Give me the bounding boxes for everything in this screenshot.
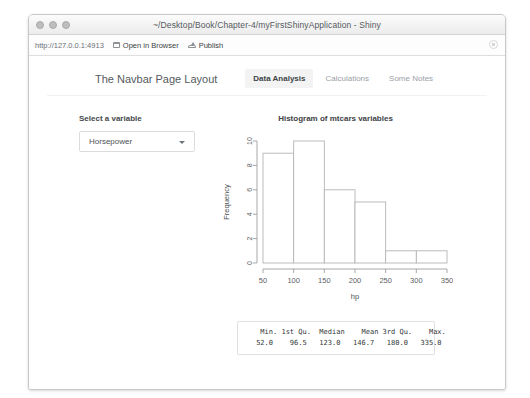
open-in-browser-button[interactable]: Open in Browser — [113, 41, 179, 50]
publish-button[interactable]: Publish — [188, 41, 224, 50]
close-dot-button[interactable] — [36, 21, 44, 29]
svg-text:10: 10 — [245, 137, 252, 145]
tab-some-notes[interactable]: Some Notes — [381, 69, 441, 88]
publish-icon — [188, 42, 196, 48]
svg-text:300: 300 — [410, 276, 423, 285]
viewer-toolbar: http://127.0.0.1:4913 Open in Browser Pu… — [29, 35, 505, 56]
navbar-tabs: Data Analysis Calculations Some Notes — [245, 69, 441, 88]
summary-header: Min. 1st Qu. Median Mean 3rd Qu. Max. — [244, 327, 428, 338]
publish-label: Publish — [199, 41, 224, 50]
variable-select-value: Horsepower — [89, 137, 132, 146]
external-window-icon — [113, 42, 120, 48]
window-controls — [36, 15, 70, 34]
summary-values: 52.0 96.5 123.0 146.7 180.0 335.0 — [244, 338, 428, 349]
minimize-dot-button[interactable] — [49, 21, 57, 29]
svg-text:250: 250 — [379, 276, 392, 285]
maximize-dot-button[interactable] — [62, 21, 70, 29]
svg-text:350: 350 — [440, 276, 452, 285]
open-in-browser-label: Open in Browser — [123, 41, 179, 50]
tab-data-analysis[interactable]: Data Analysis — [245, 69, 313, 88]
svg-text:2: 2 — [245, 237, 252, 241]
svg-text:Frequency: Frequency — [222, 184, 231, 220]
shiny-page: The Navbar Page Layout Data Analysis Cal… — [29, 62, 505, 390]
plot-title: Histogram of mtcars variables — [194, 114, 477, 123]
window-title-bar: ~/Desktop/Book/Chapter-4/myFirstShinyApp… — [29, 15, 505, 35]
select-variable-label: Select a variable — [79, 114, 194, 123]
stop-circle-icon[interactable] — [489, 40, 498, 49]
svg-text:0: 0 — [245, 261, 252, 265]
chevron-down-icon — [179, 141, 185, 144]
variable-select[interactable]: Horsepower — [79, 131, 195, 152]
tab-calculations[interactable]: Calculations — [317, 69, 377, 88]
main-panel: Histogram of mtcars variables 0246810501… — [194, 114, 505, 355]
svg-text:150: 150 — [318, 276, 331, 285]
content-row: Select a variable Horsepower Histogram o… — [29, 96, 505, 355]
summary-stats-box: Min. 1st Qu. Median Mean 3rd Qu. Max. 52… — [237, 321, 435, 355]
histogram-svg: 024681050100150200250300350hpFrequency — [219, 129, 453, 309]
navbar-brand: The Navbar Page Layout — [95, 73, 217, 85]
svg-text:6: 6 — [245, 188, 252, 192]
window-title: ~/Desktop/Book/Chapter-4/myFirstShinyApp… — [29, 20, 505, 30]
svg-text:50: 50 — [258, 276, 266, 285]
svg-text:hp: hp — [350, 292, 358, 301]
navbar: The Navbar Page Layout Data Analysis Cal… — [47, 62, 487, 96]
shiny-app-window: ~/Desktop/Book/Chapter-4/myFirstShinyApp… — [28, 14, 506, 390]
svg-text:200: 200 — [348, 276, 361, 285]
svg-text:100: 100 — [287, 276, 300, 285]
histogram-plot: 024681050100150200250300350hpFrequency — [219, 129, 453, 309]
sidebar-panel: Select a variable Horsepower — [29, 114, 194, 355]
svg-text:8: 8 — [245, 163, 252, 167]
address-text: http://127.0.0.1:4913 — [35, 41, 104, 50]
svg-text:4: 4 — [245, 212, 252, 216]
